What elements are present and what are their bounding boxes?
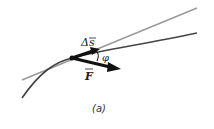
force-label: F [84, 70, 94, 83]
contact-point [70, 56, 75, 61]
figure-caption: (a) [92, 103, 106, 114]
angle-label: φ [102, 52, 109, 63]
work-diagram: Δs φ F (a) [0, 0, 214, 129]
force-vector [72, 58, 121, 72]
